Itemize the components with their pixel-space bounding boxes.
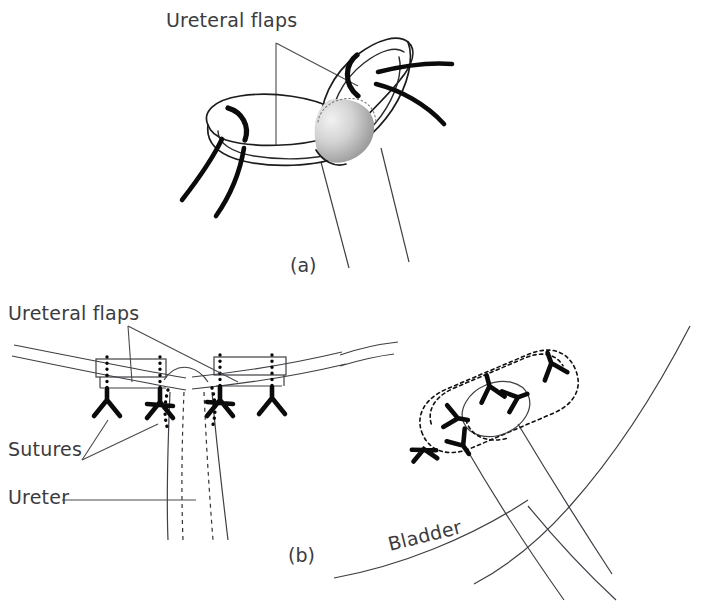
panel-a-suture-left xyxy=(182,108,246,216)
anastomosis-outline xyxy=(410,340,588,464)
label-ureteral-flaps-top: Ureteral flaps xyxy=(166,9,297,31)
knot xyxy=(147,389,173,418)
knot xyxy=(94,389,120,416)
panel-b-knots-left xyxy=(94,387,285,418)
bladder-ureter-limbs xyxy=(466,424,616,600)
panel-a-caption: (a) xyxy=(290,254,316,276)
figure-root: (a) xyxy=(0,0,702,608)
label-ureter: Ureter xyxy=(8,486,69,508)
label-ureteral-flaps-bottom: Ureteral flaps xyxy=(8,302,139,324)
label-bladder: Bladder xyxy=(386,515,464,554)
panel-b-flap-leaders xyxy=(128,326,238,382)
panel-b-stitch-columns xyxy=(107,355,272,430)
panel-a-ureter-stem xyxy=(321,148,409,268)
surgical-illustration: (a) xyxy=(0,0,702,608)
panel-b-ureter-tube xyxy=(167,392,228,540)
panel-a: (a) xyxy=(182,38,452,276)
panel-b-right xyxy=(334,326,690,600)
panel-b-caption: (b) xyxy=(288,544,315,566)
label-sutures: Sutures xyxy=(8,438,82,460)
panel-a-lumen-shade xyxy=(315,98,376,162)
knot xyxy=(207,387,233,416)
bladder-outline xyxy=(334,326,690,584)
anastomosis-knots xyxy=(412,349,568,462)
panel-b-suture-leaders xyxy=(82,420,158,460)
knot xyxy=(412,446,437,461)
panel-b-meatus xyxy=(164,367,208,382)
knot xyxy=(259,387,285,414)
